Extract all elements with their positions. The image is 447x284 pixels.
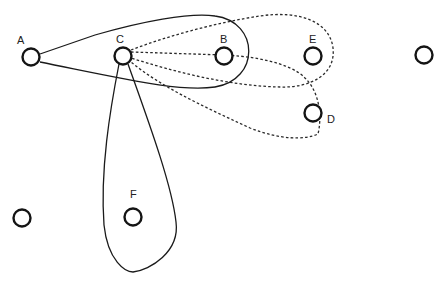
node-unlabeled-bottom-left[interactable] — [14, 210, 31, 227]
node-d-label: D — [327, 113, 335, 125]
loop-c-around-f — [103, 64, 176, 272]
node-d-circle[interactable] — [305, 105, 322, 122]
node-f-circle[interactable] — [125, 209, 142, 226]
node-right-circle[interactable] — [416, 47, 433, 64]
node-a-label: A — [17, 34, 25, 46]
node-c[interactable]: C — [115, 33, 132, 65]
node-f-label: F — [130, 188, 137, 200]
graph-diagram: A C B E D F — [0, 0, 447, 284]
node-a-circle[interactable] — [23, 49, 40, 66]
node-f[interactable]: F — [125, 188, 142, 226]
node-b[interactable]: B — [216, 33, 233, 65]
node-e-label: E — [309, 33, 316, 45]
node-unlabeled-right[interactable] — [416, 47, 433, 64]
node-e[interactable]: E — [305, 33, 322, 65]
node-a[interactable]: A — [17, 34, 40, 66]
node-e-circle[interactable] — [305, 48, 322, 65]
diagram-canvas: A C B E D F — [0, 0, 447, 284]
node-b-circle[interactable] — [216, 48, 233, 65]
node-b-label: B — [220, 33, 227, 45]
node-c-circle[interactable] — [115, 48, 132, 65]
node-bottom-left-circle[interactable] — [14, 210, 31, 227]
node-c-label: C — [116, 33, 124, 45]
